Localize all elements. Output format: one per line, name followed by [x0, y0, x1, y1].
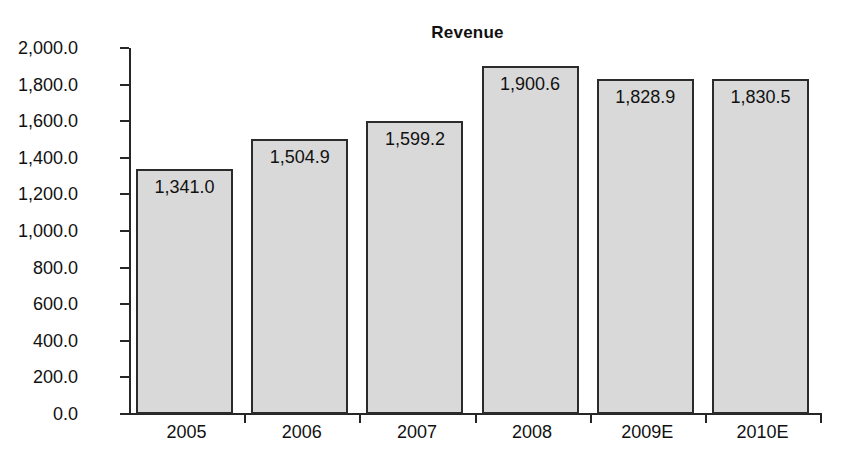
y-axis-tick-label: 1,800.0	[0, 76, 78, 94]
bar: 1,504.9	[251, 139, 348, 414]
y-axis-tick	[120, 303, 129, 305]
y-axis-tick	[120, 84, 129, 86]
y-axis-tick	[120, 157, 129, 159]
y-axis-tick-label: 1,200.0	[0, 185, 78, 203]
y-axis-tick-label: 1,000.0	[0, 222, 78, 240]
bar: 1,828.9	[597, 79, 694, 414]
y-axis-tick-label: 2,000.0	[0, 39, 78, 57]
y-axis-tick	[120, 47, 129, 49]
y-axis-tick	[120, 376, 129, 378]
y-axis-tick	[120, 230, 129, 232]
x-axis-category-label: 2006	[244, 422, 359, 442]
bar: 1,830.5	[712, 79, 809, 414]
x-axis-category-label: 2008	[475, 422, 590, 442]
revenue-bar-chart: Revenue 2,000.01,800.01,600.01,400.01,20…	[0, 0, 855, 469]
chart-title: Revenue	[0, 23, 855, 43]
y-axis-tick	[120, 413, 129, 415]
y-axis-tick-label: 1,400.0	[0, 149, 78, 167]
x-axis-category-label: 2005	[129, 422, 244, 442]
x-axis-tick	[820, 414, 822, 423]
y-axis-tick-label: 600.0	[0, 295, 78, 313]
bar: 1,341.0	[136, 169, 233, 414]
bar-value-label: 1,830.5	[714, 87, 807, 107]
y-axis-tick-label: 800.0	[0, 259, 78, 277]
bar-value-label: 1,599.2	[368, 129, 461, 149]
bar: 1,900.6	[482, 66, 579, 414]
y-axis-tick-label: 200.0	[0, 368, 78, 386]
bar: 1,599.2	[366, 121, 463, 414]
chart-title-text: Revenue	[431, 23, 503, 42]
bar-value-label: 1,341.0	[138, 177, 231, 197]
plot-area: 2,000.01,800.01,600.01,400.01,200.01,000…	[129, 48, 820, 414]
y-axis-tick	[120, 120, 129, 122]
x-axis-category-label: 2007	[359, 422, 474, 442]
y-axis-tick	[120, 193, 129, 195]
x-axis-category-label: 2009E	[590, 422, 705, 442]
y-axis-tick	[120, 340, 129, 342]
bar-value-label: 1,828.9	[599, 87, 692, 107]
y-axis-tick-label: 400.0	[0, 332, 78, 350]
bar-value-label: 1,504.9	[253, 147, 346, 167]
y-axis-tick	[120, 267, 129, 269]
x-axis-category-label: 2010E	[705, 422, 820, 442]
y-axis-tick-label: 0.0	[0, 405, 78, 423]
bar-value-label: 1,900.6	[484, 74, 577, 94]
y-axis-tick-label: 1,600.0	[0, 112, 78, 130]
